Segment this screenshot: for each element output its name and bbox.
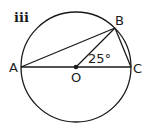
geometry-diagram: iii A B C O 25° <box>0 0 147 134</box>
label-a: A <box>9 60 18 75</box>
label-o: O <box>71 70 81 85</box>
label-c: C <box>133 61 142 76</box>
chord-bc <box>115 28 131 67</box>
part-label: iii <box>14 10 29 25</box>
label-b: B <box>115 13 124 28</box>
angle-label: 25° <box>88 51 111 66</box>
center-point <box>74 65 79 70</box>
